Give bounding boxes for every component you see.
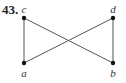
vertex-d [111,16,115,20]
vertex-c [22,16,26,20]
problem-number: 43. [2,3,18,16]
vertex-b [111,61,115,65]
graph-canvas: c d a b [0,0,126,83]
graph-figure: 43. c d a b [0,0,126,83]
vertex-label-c: c [22,3,27,15]
vertex-a [22,61,26,65]
vertex-label-b: b [110,67,116,79]
vertex-label-a: a [21,67,27,79]
vertex-label-d: d [110,3,116,15]
